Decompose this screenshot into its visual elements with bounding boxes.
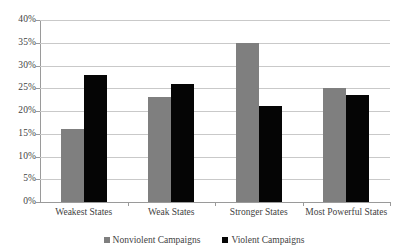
- y-axis-tick-label: 10%: [2, 152, 36, 162]
- gridline: [40, 20, 390, 21]
- y-axis-tick-label: 30%: [2, 61, 36, 71]
- bar-nonviolent: [236, 43, 259, 202]
- bar-nonviolent: [323, 88, 346, 202]
- y-axis: 0%5%10%15%20%25%30%35%40%: [0, 20, 36, 202]
- legend-item[interactable]: Violent Campaigns: [222, 235, 304, 245]
- x-axis-tick-label: Most Powerful States: [303, 206, 391, 218]
- y-axis-tick-label: 5%: [2, 174, 36, 184]
- bar-violent: [259, 106, 282, 202]
- x-axis-tick-label: Stronger States: [215, 206, 303, 218]
- legend-label: Nonviolent Campaigns: [113, 235, 201, 245]
- y-axis-tick-label: 20%: [2, 106, 36, 116]
- legend-swatch-icon: [222, 237, 228, 243]
- y-axis-tick-label: 35%: [2, 38, 36, 48]
- legend-swatch-icon: [104, 237, 110, 243]
- x-axis-tick-mark: [128, 202, 129, 206]
- bar-violent: [346, 95, 369, 202]
- bar-nonviolent: [148, 97, 171, 202]
- x-axis-labels: Weakest StatesWeak StatesStronger States…: [40, 206, 390, 224]
- x-axis-tick-label: Weakest States: [40, 206, 128, 218]
- y-axis-tick-label: 15%: [2, 129, 36, 139]
- bar-chart: 0%5%10%15%20%25%30%35%40% Weakest States…: [0, 0, 408, 250]
- x-axis-tick-mark: [390, 202, 391, 206]
- legend-item[interactable]: Nonviolent Campaigns: [104, 235, 201, 245]
- y-axis-tick-label: 40%: [2, 15, 36, 25]
- y-axis-tick-label: 0%: [2, 197, 36, 207]
- gridline: [40, 66, 390, 67]
- bar-violent: [171, 84, 194, 202]
- legend-label: Violent Campaigns: [231, 235, 304, 245]
- chart-legend: Nonviolent CampaignsViolent Campaigns: [0, 232, 408, 248]
- bar-violent: [84, 75, 107, 202]
- x-axis-tick-label: Weak States: [128, 206, 216, 218]
- bar-nonviolent: [61, 129, 84, 202]
- y-axis-tick-label: 25%: [2, 83, 36, 93]
- plot-area: [40, 20, 390, 202]
- x-axis-tick-mark: [215, 202, 216, 206]
- gridline: [40, 43, 390, 44]
- x-axis-tick-mark: [303, 202, 304, 206]
